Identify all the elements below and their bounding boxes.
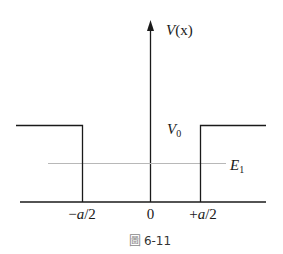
tick-label-minus-a-half: −a/2 xyxy=(68,206,96,222)
finite-square-well-diagram: V(x) V0 E1 −a/2 0 +a/2 圖6-11 xyxy=(0,0,283,254)
figure-caption: 圖6-11 xyxy=(129,234,171,248)
y-axis-arrow-icon xyxy=(147,20,154,31)
barrier-height-label: V0 xyxy=(167,121,181,139)
y-axis-label: V(x) xyxy=(166,22,193,39)
tick-label-plus-a-half: +a/2 xyxy=(189,206,217,222)
tick-label-zero: 0 xyxy=(147,206,155,222)
energy-label: E1 xyxy=(229,157,244,175)
